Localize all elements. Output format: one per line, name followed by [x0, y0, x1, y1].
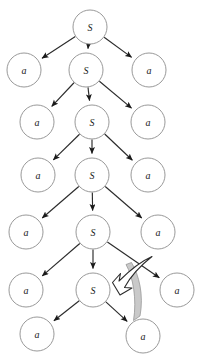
tree-node-a6R[interactable]: a	[126, 319, 160, 353]
tree-edge-S1-to-a2R	[99, 81, 131, 108]
tree-node-a5L[interactable]: a	[9, 273, 43, 307]
tree-edge-S3-to-a4R	[105, 186, 141, 218]
tree-edge-S0-to-a1L	[42, 37, 75, 59]
tree-edge-S2-to-a3R	[105, 134, 133, 160]
node-circle	[76, 215, 110, 249]
node-circle	[20, 317, 54, 351]
tree-edge-S4-to-a5L	[42, 243, 80, 275]
node-circle	[7, 53, 41, 87]
tree-node-a5R[interactable]: a	[160, 273, 194, 307]
tree-node-a4L[interactable]: a	[9, 215, 43, 249]
node-circle	[9, 215, 43, 249]
tree-edge-S0-to-a1R	[104, 37, 131, 57]
tree-node-a1L[interactable]: a	[7, 53, 41, 87]
tree-edge-S1-to-S2	[88, 87, 90, 100]
annotation-layer	[113, 257, 153, 321]
tree-node-S2[interactable]: S	[75, 105, 109, 139]
tree-edge-S3-to-a4L	[42, 186, 78, 218]
node-circle	[160, 273, 194, 307]
node-circle	[76, 273, 110, 307]
node-circle	[75, 158, 109, 192]
tree-node-a2L[interactable]: a	[20, 105, 54, 139]
tree-node-S1[interactable]: S	[69, 53, 103, 87]
node-circle	[75, 105, 109, 139]
tree-canvas: SaSaaSaaSaaSaaSaaa	[0, 0, 205, 358]
node-circle	[20, 105, 54, 139]
nodes-layer: SaSaaSaaSaaSaaSaaa	[7, 10, 194, 353]
tree-node-a6L[interactable]: a	[20, 317, 54, 351]
node-circle	[21, 158, 55, 192]
node-circle	[141, 215, 175, 249]
tree-node-S5[interactable]: S	[76, 273, 110, 307]
node-circle	[73, 10, 107, 44]
node-circle	[9, 273, 43, 307]
tree-node-a2R[interactable]: a	[131, 105, 165, 139]
tree-edge-S2-to-a3L	[53, 134, 79, 160]
tree-node-a3R[interactable]: a	[131, 158, 165, 192]
node-circle	[132, 53, 166, 87]
tree-edge-S5-to-a6L	[54, 301, 79, 321]
tree-node-a3L[interactable]: a	[21, 158, 55, 192]
tree-edge-S5-to-a6R	[106, 302, 127, 322]
tree-node-S4[interactable]: S	[76, 215, 110, 249]
tree-node-S0[interactable]: S	[73, 10, 107, 44]
node-circle	[131, 158, 165, 192]
parse-tree-diagram: SaSaaSaaSaaSaaSaaa	[0, 0, 205, 358]
node-circle	[126, 319, 160, 353]
tree-edge-S1-to-a2L	[52, 83, 74, 107]
tree-node-S3[interactable]: S	[75, 158, 109, 192]
node-circle	[131, 105, 165, 139]
node-circle	[69, 53, 103, 87]
tree-node-a1R[interactable]: a	[132, 53, 166, 87]
recursion-hollow-arrow	[113, 257, 153, 296]
tree-node-a4R[interactable]: a	[141, 215, 175, 249]
